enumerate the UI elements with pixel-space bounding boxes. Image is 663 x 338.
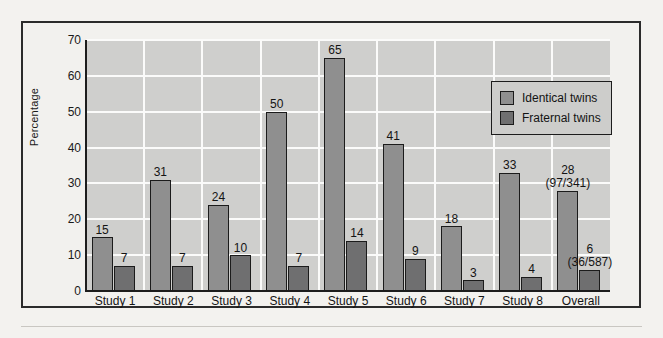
y-tick-60: 60 (68, 69, 81, 83)
bar-fraternal-study-6: 9 (405, 259, 426, 291)
bar-identical-study-1: 15 (92, 237, 113, 291)
bar-group: 28(97/341)6(36/587) (552, 40, 610, 291)
bar-value-label: 50 (270, 98, 283, 111)
bar-fraternal-study-5: 14 (346, 241, 367, 291)
y-axis-title: Percentage (28, 62, 40, 172)
bar-value-sublabel: (36/587) (568, 256, 613, 269)
legend-label-fraternal-twins: Fraternal twins (522, 111, 601, 125)
bar-value-label: 9 (412, 245, 419, 258)
bar-group: 334 (494, 40, 552, 291)
x-tick-study-5: Study 5 (328, 294, 369, 308)
bar-value-label: 41 (387, 130, 400, 143)
bar-value-label: 31 (154, 166, 167, 179)
bar-value-label: 3 (470, 267, 477, 280)
fraternal-twins-swatch-icon (500, 111, 514, 125)
y-tick-30: 30 (68, 176, 81, 190)
legend-item-identical-twins: Identical twins (500, 88, 601, 108)
bar-identical-study-3: 24 (208, 205, 229, 291)
bar-value-label: 18 (445, 213, 458, 226)
bar-value-label: 14 (350, 227, 363, 240)
bar-fraternal-study-8: 4 (521, 277, 542, 291)
x-tick-study-3: Study 3 (211, 294, 252, 308)
y-tick-50: 50 (68, 105, 81, 119)
bar-group: 317 (144, 40, 202, 291)
x-tick-study-2: Study 2 (153, 294, 194, 308)
bar-identical-study-4: 50 (266, 112, 287, 291)
y-tick-40: 40 (68, 141, 81, 155)
bar-fraternal-study-4: 7 (288, 266, 309, 291)
bar-value-label: 6(36/587) (568, 243, 613, 268)
y-tick-10: 10 (68, 248, 81, 262)
bar-value-label: 7 (121, 252, 128, 265)
bar-value-label: 24 (212, 191, 225, 204)
bar-fraternal-study-7: 3 (463, 280, 484, 291)
bar-value-label: 4 (528, 263, 535, 276)
bars-layer: 1573172410507651441918333428(97/341)6(36… (86, 40, 610, 291)
legend-item-fraternal-twins: Fraternal twins (500, 108, 601, 128)
bar-identical-overall: 28(97/341) (557, 191, 578, 291)
bar-group: 6514 (319, 40, 377, 291)
x-axis-tick-labels: Study 1Study 2Study 3Study 4Study 5Study… (86, 294, 610, 316)
bar-fraternal-study-1: 7 (114, 266, 135, 291)
y-tick-0: 0 (74, 284, 81, 298)
bar-group: 507 (261, 40, 319, 291)
x-tick-overall: Overall (562, 294, 600, 308)
bar-value-label: 7 (179, 252, 186, 265)
x-tick-study-7: Study 7 (444, 294, 485, 308)
legend-label-identical-twins: Identical twins (522, 91, 597, 105)
bar-value-label: 28(97/341) (546, 164, 591, 189)
bar-value-label: 33 (503, 159, 516, 172)
bar-identical-study-6: 41 (383, 144, 404, 291)
bar-value-label: 7 (295, 252, 302, 265)
bar-value-label: 10 (234, 242, 247, 255)
y-tick-20: 20 (68, 212, 81, 226)
chart-legend: Identical twins Fraternal twins (491, 81, 612, 135)
bar-identical-study-5: 65 (324, 58, 345, 291)
bar-fraternal-study-3: 10 (230, 255, 251, 291)
figure-frame: 010203040506070 Percentage 1573172410507… (21, 21, 641, 308)
bar-value-label: 15 (95, 224, 108, 237)
bar-group: 419 (377, 40, 435, 291)
x-tick-study-6: Study 6 (386, 294, 427, 308)
page-bottom-rule (21, 326, 642, 327)
y-axis-tick-labels: 010203040506070 (43, 40, 81, 291)
bar-identical-study-8: 33 (499, 173, 520, 291)
x-tick-study-1: Study 1 (95, 294, 136, 308)
bar-group: 2410 (202, 40, 260, 291)
x-tick-study-4: Study 4 (269, 294, 310, 308)
y-tick-70: 70 (68, 33, 81, 47)
bar-identical-study-7: 18 (441, 226, 462, 291)
bar-chart: 010203040506070 Percentage 1573172410507… (23, 23, 639, 306)
bar-value-sublabel: (97/341) (546, 177, 591, 190)
bar-identical-study-2: 31 (150, 180, 171, 291)
bar-group: 183 (435, 40, 493, 291)
bar-group: 157 (86, 40, 144, 291)
bar-fraternal-study-2: 7 (172, 266, 193, 291)
bar-fraternal-overall: 6(36/587) (579, 270, 600, 292)
x-tick-study-8: Study 8 (502, 294, 543, 308)
bar-value-label: 65 (328, 44, 341, 57)
identical-twins-swatch-icon (500, 91, 514, 105)
